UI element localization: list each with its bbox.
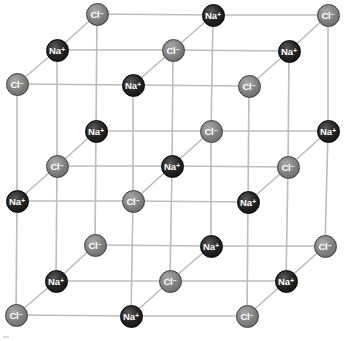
- chloride-ion: Cl−: [317, 4, 340, 27]
- bond-line: [56, 166, 57, 281]
- ion-charge: −: [331, 11, 335, 18]
- ion-symbol: Na: [123, 311, 135, 322]
- ion-symbol: Na: [88, 126, 100, 137]
- bond-line: [288, 51, 289, 167]
- bond-line: [16, 201, 17, 315]
- ion-charge: −: [291, 163, 295, 170]
- chloride-ion: Cl−: [84, 234, 107, 257]
- sodium-ion: Na+: [278, 40, 301, 63]
- ion-charge: −: [176, 46, 180, 53]
- ion-charge: −: [100, 10, 104, 17]
- bond-line: [131, 201, 133, 316]
- ion-symbol: Cl: [281, 162, 290, 173]
- sodium-ion: Na+: [317, 120, 340, 143]
- ion-charge: +: [21, 197, 25, 204]
- ion-symbol: Cl: [126, 196, 135, 207]
- ion-symbol: Cl: [163, 276, 172, 287]
- sodium-ion: Na+: [85, 120, 108, 143]
- bond-line: [173, 50, 289, 51]
- sodium-ion: Na+: [6, 190, 29, 213]
- ion-symbol: Cl: [88, 240, 97, 251]
- ion-symbol: Cl: [321, 10, 330, 21]
- ion-symbol: Na: [281, 46, 293, 57]
- ion-symbol: Na: [48, 276, 60, 287]
- sodium-ion: Na+: [275, 270, 298, 293]
- bond-line: [16, 315, 131, 316]
- chloride-ion: Cl−: [162, 39, 185, 62]
- chloride-ion: Cl−: [6, 73, 29, 96]
- chloride-ion: Cl−: [314, 235, 337, 258]
- chloride-ion: Cl−: [238, 75, 261, 98]
- chloride-ion: Cl−: [236, 305, 259, 328]
- bond-line: [248, 86, 249, 202]
- ion-charge: −: [19, 311, 23, 318]
- ion-symbol: Na: [320, 126, 332, 137]
- sodium-ion: Na+: [161, 155, 184, 178]
- bond-line: [133, 201, 248, 202]
- ion-charge: +: [252, 198, 256, 205]
- ion-charge: +: [137, 81, 141, 88]
- ion-symbol: Cl: [318, 241, 327, 252]
- ion-charge: +: [61, 46, 65, 53]
- ion-symbol: Na: [125, 80, 137, 91]
- sodium-ion: Na+: [45, 270, 68, 293]
- chloride-ion: Cl−: [200, 120, 223, 143]
- chloride-ion: Cl−: [159, 270, 182, 293]
- sodium-ion: Na+: [202, 4, 225, 27]
- ion-charge: +: [135, 312, 139, 319]
- bond-line: [170, 166, 172, 281]
- ion-charge: +: [176, 162, 180, 169]
- ion-symbol: Cl: [240, 311, 249, 322]
- chloride-ion: Cl−: [277, 156, 300, 179]
- ion-charge: +: [60, 277, 64, 284]
- bond-line: [17, 84, 133, 85]
- ion-symbol: Na: [240, 197, 252, 208]
- ion-charge: +: [293, 47, 297, 54]
- bond-line: [172, 166, 288, 167]
- bond-line: [211, 15, 213, 131]
- ion-charge: −: [252, 82, 256, 89]
- bond-line: [95, 131, 96, 245]
- ion-symbol: Na: [278, 276, 290, 287]
- ion-charge: −: [60, 162, 64, 169]
- sodium-ion: Na+: [122, 74, 145, 97]
- bond-line: [96, 14, 97, 131]
- ion-symbol: Na: [49, 45, 61, 56]
- scan-artifact: [3, 336, 9, 338]
- sodium-ion: Na+: [46, 39, 69, 62]
- ion-symbol: Cl: [50, 161, 59, 172]
- nacl-lattice-diagram: Cl−Na+Cl−Na+Cl−Na+Cl−Na+Cl−Na+Cl−Na+Cl−N…: [0, 0, 347, 341]
- ion-charge: −: [328, 242, 332, 249]
- bond-line: [95, 245, 211, 246]
- ion-charge: −: [20, 80, 24, 87]
- chloride-ion: Cl−: [122, 190, 145, 213]
- chloride-ion: Cl−: [86, 3, 109, 26]
- ion-charge: −: [136, 197, 140, 204]
- ion-charge: −: [250, 312, 254, 319]
- ion-symbol: Cl: [90, 9, 99, 20]
- bond-line: [133, 85, 249, 86]
- bond-line: [325, 131, 328, 246]
- ion-symbol: Cl: [166, 45, 175, 56]
- sodium-ion: Na+: [120, 305, 143, 328]
- ion-symbol: Cl: [242, 81, 251, 92]
- sodium-ion: Na+: [237, 191, 260, 214]
- bond-line: [286, 167, 288, 281]
- ion-charge: −: [98, 241, 102, 248]
- chloride-ion: Cl−: [5, 304, 28, 327]
- ion-charge: +: [332, 127, 336, 134]
- ion-charge: −: [214, 127, 218, 134]
- ion-symbol: Cl: [10, 79, 19, 90]
- bond-line: [97, 14, 213, 15]
- bond-line: [172, 50, 173, 166]
- ion-charge: +: [217, 11, 221, 18]
- ion-charge: +: [290, 277, 294, 284]
- chloride-ion: Cl−: [46, 155, 69, 178]
- ion-symbol: Cl: [9, 310, 18, 321]
- ion-symbol: Na: [203, 241, 215, 252]
- ion-symbol: Na: [205, 10, 217, 21]
- sodium-ion: Na+: [200, 235, 223, 258]
- ion-symbol: Cl: [204, 126, 213, 137]
- ion-symbol: Na: [164, 161, 176, 172]
- ion-charge: −: [173, 277, 177, 284]
